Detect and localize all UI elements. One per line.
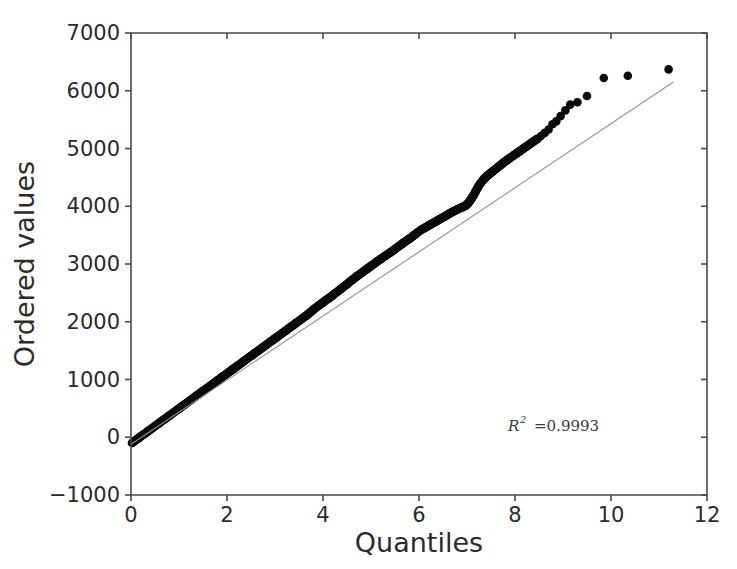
y-tick-label: 4000 — [67, 194, 120, 218]
y-tick-label: 7000 — [67, 21, 120, 45]
y-tick-label: 0 — [107, 425, 120, 449]
y-tick-label: 6000 — [67, 79, 120, 103]
data-point — [533, 135, 542, 144]
y-tick-label: 5000 — [67, 137, 120, 161]
x-tick-label: 4 — [316, 503, 329, 527]
r-squared-value: =0.9993 — [534, 417, 599, 435]
x-tick-label: 2 — [220, 503, 233, 527]
r-squared-exponent: 2 — [519, 414, 526, 425]
qq-plot-figure: 024681012 −10000100020003000400050006000… — [0, 0, 737, 569]
y-tick-label: 2000 — [67, 310, 120, 334]
data-point — [624, 71, 633, 80]
y-tick-label: −1000 — [49, 483, 120, 507]
x-tick-label: 0 — [124, 503, 137, 527]
x-axis-title: Quantiles — [355, 527, 483, 558]
data-point — [600, 74, 609, 83]
x-tick-label: 8 — [508, 503, 521, 527]
data-point — [573, 98, 582, 107]
data-point — [664, 65, 673, 74]
y-tick-label: 3000 — [67, 252, 120, 276]
data-point — [583, 92, 592, 101]
r-squared-symbol: R — [507, 417, 519, 435]
chart-canvas: 024681012 −10000100020003000400050006000… — [0, 0, 737, 569]
y-axis-title: Ordered values — [9, 161, 40, 367]
x-tick-label: 6 — [412, 503, 425, 527]
x-tick-label: 10 — [598, 503, 625, 527]
y-tick-label: 1000 — [67, 368, 120, 392]
x-tick-label: 12 — [694, 503, 721, 527]
